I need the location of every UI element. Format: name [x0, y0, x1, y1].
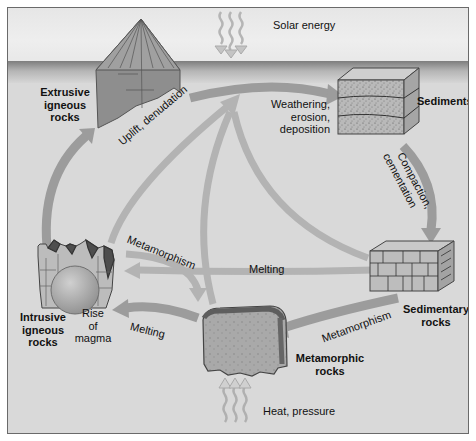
sedimentary-line-2: rocks [398, 316, 469, 329]
sedimentary-rocks-label: Sedimentary rocks [398, 303, 469, 328]
metamorphic-line-2: rocks [292, 365, 368, 378]
heat-pressure-label: Heat, pressure [263, 405, 335, 418]
magma-line-2: of [71, 320, 115, 333]
sedimentary-line-1: Sedimentary [398, 303, 469, 316]
intrusive-igneous-rocks-illustration [38, 240, 114, 314]
melting-upper-label: Melting [249, 263, 284, 276]
metamorphic-line-1: Metamorphic [292, 352, 368, 365]
extrusive-igneous-rocks-label: Extrusive igneous rocks [35, 86, 95, 124]
weathering-erosion-deposition-label: Weathering, erosion, deposition [258, 98, 330, 136]
extrusive-line-1: Extrusive [35, 86, 95, 99]
weathering-line-3: deposition [258, 123, 330, 136]
intrusive-line-3: rocks [13, 336, 73, 349]
sedimentary-rocks-illustration [370, 241, 454, 291]
extrusive-line-3: rocks [35, 111, 95, 124]
sediments-label: Sediments [417, 95, 469, 108]
metamorphic-rocks-label: Metamorphic rocks [292, 352, 368, 377]
sediments-illustration [338, 68, 419, 134]
rise-of-magma-label: Rise of magma [71, 307, 115, 345]
magma-line-3: magma [71, 332, 115, 345]
extrusive-igneous-rock-illustration [96, 19, 180, 128]
intrusive-line-1: Intrusive [13, 311, 73, 324]
solar-energy-label: Solar energy [273, 19, 335, 32]
weathering-line-2: erosion, [258, 111, 330, 124]
inner-arrows [111, 106, 374, 304]
extrusive-line-2: igneous [35, 99, 95, 112]
metamorphic-rocks-illustration [203, 306, 287, 376]
diagram-graphics [8, 8, 469, 434]
heat-pressure-arrows-icon [219, 378, 251, 422]
magma-line-1: Rise [71, 307, 115, 320]
rock-cycle-diagram: Solar energy Extrusive igneous rocks Upl… [7, 7, 469, 434]
weathering-line-1: Weathering, [258, 98, 330, 111]
intrusive-line-2: igneous [13, 324, 73, 337]
solar-energy-arrows-icon [215, 12, 247, 58]
intrusive-igneous-rocks-label: Intrusive igneous rocks [13, 311, 73, 349]
